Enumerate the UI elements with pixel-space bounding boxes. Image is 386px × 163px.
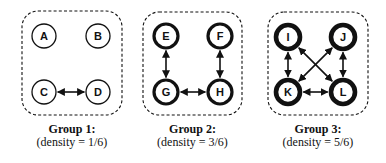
node-label: H — [216, 86, 224, 98]
node-label: G — [162, 86, 171, 98]
group-caption: Group 1:(density = 1/6) — [12, 123, 132, 149]
group-density: (density = 5/6) — [258, 136, 378, 149]
node-label: D — [94, 86, 102, 98]
node-label: E — [162, 30, 169, 42]
node-label: L — [340, 86, 347, 98]
node-label: A — [40, 30, 48, 42]
group-caption: Group 2:(density = 3/6) — [133, 123, 253, 149]
node-label: J — [340, 31, 346, 43]
node-label: K — [284, 86, 292, 98]
group-1: ABCD — [22, 11, 122, 115]
group-density: (density = 1/6) — [12, 136, 132, 149]
node-label: F — [217, 30, 224, 42]
node-label: C — [40, 86, 48, 98]
node-label: I — [286, 31, 289, 43]
group-2: EFGH — [143, 12, 242, 115]
group-density: (density = 3/6) — [133, 136, 253, 149]
group-caption: Group 3:(density = 5/6) — [258, 123, 378, 149]
group-3: IJKL — [268, 12, 368, 115]
node-label: B — [94, 30, 102, 42]
